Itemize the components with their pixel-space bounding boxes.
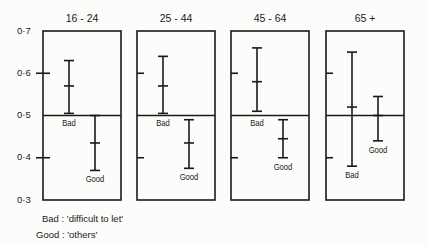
point-label-bad: Bad: [156, 118, 170, 129]
legend-bad: Bad : 'difficult to let': [42, 213, 123, 224]
point-label-bad: Bad: [250, 118, 264, 129]
panel-title-65-plus: 65 +: [326, 12, 404, 24]
y-tick-label: 0·4: [17, 151, 39, 162]
chart-canvas: BadGoodBadGoodBadGoodBadGood: [0, 0, 427, 246]
y-tick-label: 0·7: [17, 25, 39, 36]
panel-title-45-64: 45 - 64: [231, 12, 309, 24]
legend-good: Good : 'others': [36, 229, 97, 240]
point-label-good: Good: [369, 144, 388, 155]
point-label-bad: Bad: [345, 170, 359, 181]
point-label-bad: Bad: [62, 118, 76, 129]
point-label-good: Good: [86, 174, 105, 185]
panel-title-25-44: 25 - 44: [137, 12, 215, 24]
point-label-good: Good: [180, 172, 199, 183]
y-tick-label: 0·6: [17, 67, 39, 78]
point-label-good: Good: [274, 161, 293, 172]
y-tick-label: 0·5: [17, 109, 39, 120]
panel-title-16-24: 16 - 24: [43, 12, 121, 24]
y-tick-label: 0·3: [17, 194, 39, 205]
